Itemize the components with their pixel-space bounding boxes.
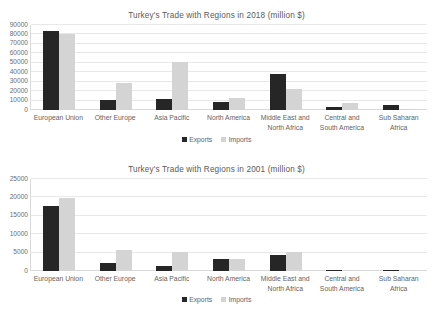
x-axis-category-label: Asia Pacific <box>143 274 200 294</box>
y-axis-tick-label: 0 <box>24 267 28 274</box>
bar-group <box>370 179 427 271</box>
bar-exports <box>100 263 116 271</box>
x-axis-category-label: Other Europe <box>87 274 144 294</box>
y-axis-tick-label: 5000 <box>13 249 28 256</box>
chart-2001-legend: Exports Imports <box>0 296 433 303</box>
legend-label-exports: Exports <box>189 136 212 143</box>
bar-imports <box>59 198 75 271</box>
x-axis-category-label: Middle East and North Africa <box>257 274 314 294</box>
y-axis-tick-label: 0 <box>24 106 28 113</box>
chart-2001-title: Turkey's Trade with Regions in 2001 (mil… <box>0 155 433 174</box>
bar-group <box>314 25 371 110</box>
chart-2001-plot-area: 0500010000150002000025000 <box>30 179 427 271</box>
bar-imports <box>229 98 245 110</box>
x-axis-category-label: Other Europe <box>87 113 144 133</box>
chart-2001-panel: Turkey's Trade with Regions in 2001 (mil… <box>0 155 433 319</box>
x-axis-category-label: North America <box>200 113 257 133</box>
bar-imports <box>172 62 188 110</box>
bar-exports <box>100 100 116 110</box>
chart-2018-panel: Turkey's Trade with Regions in 2018 (mil… <box>0 0 433 158</box>
bar-exports <box>213 259 229 271</box>
bar-imports <box>59 34 75 111</box>
y-axis-tick-label: 20000 <box>10 87 28 94</box>
bar-group <box>31 25 88 110</box>
y-axis-tick-label: 40000 <box>10 68 28 75</box>
y-axis-tick-label: 10000 <box>10 230 28 237</box>
chart-2018-plot-wrap: 0100002000030000400005000060000700008000… <box>0 25 433 110</box>
bar-imports <box>286 252 302 271</box>
bar-group <box>370 25 427 110</box>
x-axis-category-label: North America <box>200 274 257 294</box>
bar-exports <box>43 31 59 110</box>
legend-swatch-imports-icon <box>221 137 226 142</box>
bar-imports <box>399 109 415 110</box>
chart-2018-category-labels: European UnionOther EuropeAsia PacificNo… <box>30 113 427 133</box>
legend-label-imports: Imports <box>229 136 252 143</box>
bar-group <box>257 25 314 110</box>
bar-group <box>257 179 314 271</box>
bar-imports <box>286 89 302 110</box>
x-axis-category-label: Central and South America <box>314 274 371 294</box>
chart-2018-plot-area: 0100002000030000400005000060000700008000… <box>30 25 427 110</box>
x-axis-category-label: Sub Saharan Africa <box>370 113 427 133</box>
chart-2001-plot-wrap: 0500010000150002000025000 <box>0 179 433 271</box>
bar-exports <box>326 107 342 110</box>
chart-2001-category-labels: European UnionOther EuropeAsia PacificNo… <box>30 274 427 294</box>
bar-exports <box>43 206 59 271</box>
legend-item-imports: Imports <box>221 136 251 143</box>
x-axis-category-label: Asia Pacific <box>143 113 200 133</box>
y-axis-tick-label: 50000 <box>10 59 28 66</box>
bar-exports <box>213 102 229 111</box>
legend-swatch-imports-icon <box>221 297 226 302</box>
bar-exports <box>270 74 286 110</box>
bar-group <box>88 25 145 110</box>
bar-imports <box>342 270 358 271</box>
legend-item-imports: Imports <box>221 296 251 303</box>
y-axis-tick-label: 90000 <box>10 21 28 28</box>
chart-2018-bars <box>31 25 427 110</box>
y-axis-tick-label: 30000 <box>10 78 28 85</box>
chart-2018-title: Turkey's Trade with Regions in 2018 (mil… <box>0 0 433 20</box>
bar-imports <box>172 252 188 271</box>
legend-swatch-exports-icon <box>182 297 187 302</box>
bar-imports <box>399 270 415 271</box>
y-axis-tick-label: 80000 <box>10 31 28 38</box>
bar-group <box>201 25 258 110</box>
y-axis-tick-label: 15000 <box>10 212 28 219</box>
bar-exports <box>326 270 342 271</box>
x-axis-category-label: Middle East and North Africa <box>257 113 314 133</box>
bar-exports <box>156 99 172 110</box>
bar-imports <box>116 83 132 110</box>
y-axis-tick-label: 70000 <box>10 40 28 47</box>
x-axis-category-label: European Union <box>30 113 87 133</box>
y-axis-tick-label: 10000 <box>10 97 28 104</box>
y-axis-tick-label: 25000 <box>10 175 28 182</box>
bar-exports <box>270 255 286 271</box>
chart-2001-bars <box>31 179 427 271</box>
bar-group <box>88 179 145 271</box>
y-axis-tick-label: 60000 <box>10 50 28 57</box>
bar-exports <box>156 266 172 271</box>
x-axis-category-label: Sub Saharan Africa <box>370 274 427 294</box>
bar-group <box>144 179 201 271</box>
bar-imports <box>229 259 245 271</box>
x-axis-category-label: European Union <box>30 274 87 294</box>
bar-group <box>201 179 258 271</box>
legend-label-imports: Imports <box>229 296 252 303</box>
legend-item-exports: Exports <box>182 136 213 143</box>
legend-label-exports: Exports <box>189 296 212 303</box>
bar-imports <box>342 103 358 110</box>
bar-group <box>314 179 371 271</box>
bar-group <box>144 25 201 110</box>
chart-2018-legend: Exports Imports <box>0 136 433 143</box>
legend-swatch-exports-icon <box>182 137 187 142</box>
legend-item-exports: Exports <box>182 296 213 303</box>
bar-exports <box>383 270 399 271</box>
bar-group <box>31 179 88 271</box>
bar-exports <box>383 105 399 110</box>
bar-imports <box>116 250 132 271</box>
x-axis-category-label: Central and South America <box>314 113 371 133</box>
y-axis-tick-label: 20000 <box>10 194 28 201</box>
